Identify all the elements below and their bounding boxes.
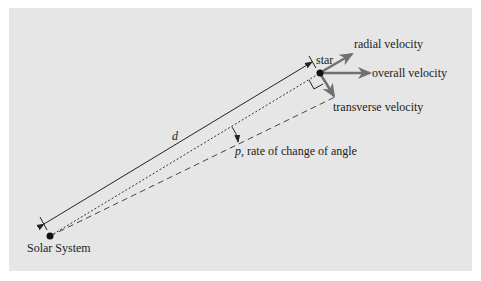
solar-system-dot (47, 233, 54, 240)
previous-line-of-sight (50, 97, 335, 236)
angle-symbol: p (234, 144, 241, 158)
distance-tick-start (40, 217, 47, 230)
transverse-velocity-arrow (321, 75, 334, 96)
distance-label: d (172, 129, 179, 143)
astronomy-diagram: star radial velocity overall velocity tr… (0, 0, 481, 281)
distance-arrow (44, 62, 312, 224)
angle-label: p, rate of change of angle (234, 144, 357, 158)
star-label: star (316, 53, 333, 67)
angle-arrow (232, 127, 238, 142)
solar-system-label: Solar System (27, 241, 91, 255)
right-angle-marker (309, 80, 323, 89)
angle-description: , rate of change of angle (241, 144, 357, 158)
overall-velocity-label: overall velocity (372, 66, 447, 80)
distance-tick-end (309, 56, 316, 68)
radial-velocity-label: radial velocity (354, 37, 423, 51)
star-dot (317, 70, 324, 77)
transverse-velocity-label: transverse velocity (333, 100, 423, 114)
